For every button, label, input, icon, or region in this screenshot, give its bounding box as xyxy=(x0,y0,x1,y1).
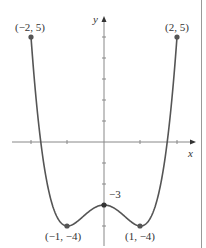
point-left-min xyxy=(64,223,69,228)
y-axis: y xyxy=(92,13,107,246)
x-axis-label: x xyxy=(187,147,193,159)
label-left-top: (−2, 5) xyxy=(15,21,45,34)
x-axis-arrow-icon xyxy=(190,140,196,145)
label-center: −3 xyxy=(109,188,121,200)
label-left-min: (−1, −4) xyxy=(45,230,82,243)
y-axis-arrow-icon xyxy=(102,16,107,22)
point-right-min xyxy=(137,223,142,228)
label-right-top: (2, 5) xyxy=(165,21,189,34)
chart: x y (−2, 5) (2, 5) (−1, −4) (1, −4) −3 xyxy=(0,0,206,248)
point-left-top xyxy=(28,34,33,39)
point-center xyxy=(101,202,106,207)
point-right-top xyxy=(174,34,179,39)
y-axis-label: y xyxy=(92,13,98,25)
label-right-min: (1, −4) xyxy=(125,230,155,243)
